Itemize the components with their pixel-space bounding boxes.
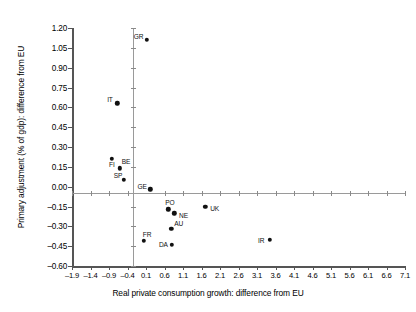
scatter-chart-figure: –1.9–1.4–0.9–0.40.10.61.11.62.12.63.13.6… xyxy=(0,0,416,312)
zero-line-y-tick xyxy=(131,68,136,69)
data-point-label: FR xyxy=(143,231,152,238)
data-point-label: PO xyxy=(165,199,174,206)
x-tick-label: 1.1 xyxy=(178,271,188,280)
x-tick xyxy=(109,266,110,270)
data-point xyxy=(170,243,174,247)
x-tick-label: 4.6 xyxy=(308,271,318,280)
x-tick-label: –0.4 xyxy=(121,271,135,280)
zero-line-y-tick xyxy=(131,48,136,49)
y-tick-label: 1.20 xyxy=(52,24,67,33)
zero-line-x-tick xyxy=(91,191,92,196)
data-point-label: IT xyxy=(107,96,113,103)
data-point-label: DA xyxy=(159,241,168,248)
data-point xyxy=(118,166,122,170)
y-tick-label: 0.30 xyxy=(52,143,67,152)
y-tick-label: 0.00 xyxy=(52,182,67,191)
y-tick-label: 0.60 xyxy=(52,103,67,112)
y-axis-title: Primary adjustment (% of gdp): differenc… xyxy=(16,12,26,262)
x-tick xyxy=(220,266,221,270)
x-tick xyxy=(202,266,203,270)
data-point-label: UK xyxy=(210,205,219,212)
plot-area: –1.9–1.4–0.9–0.40.10.61.11.62.12.63.13.6… xyxy=(72,28,405,266)
x-tick xyxy=(331,266,332,270)
x-tick xyxy=(72,266,73,270)
x-tick-label: 2.6 xyxy=(234,271,244,280)
y-tick xyxy=(68,48,72,49)
x-tick-label: 1.6 xyxy=(197,271,207,280)
zero-line-y-tick xyxy=(131,28,136,29)
x-tick-label: 3.1 xyxy=(252,271,262,280)
data-point-label: AU xyxy=(174,220,183,227)
data-point-label: GE xyxy=(137,183,146,190)
zero-line-x-tick xyxy=(202,191,203,196)
y-tick-label: 0.75 xyxy=(52,83,67,92)
y-tick-label: 0.90 xyxy=(52,63,67,72)
x-tick-label: 5.1 xyxy=(326,271,336,280)
x-tick-label: –1.4 xyxy=(84,271,98,280)
x-tick xyxy=(146,266,147,270)
y-tick xyxy=(68,127,72,128)
zero-line-x-tick xyxy=(368,191,369,196)
zero-line-x-tick xyxy=(183,191,184,196)
data-point xyxy=(166,207,170,211)
y-tick xyxy=(68,68,72,69)
x-tick xyxy=(387,266,388,270)
zero-line-y-tick xyxy=(131,207,136,208)
y-tick xyxy=(68,246,72,247)
zero-line-y-tick xyxy=(131,127,136,128)
y-axis-line xyxy=(72,28,74,266)
data-point-label: SP xyxy=(114,172,123,179)
y-tick-label: 1.05 xyxy=(52,43,67,52)
x-tick xyxy=(276,266,277,270)
zero-line-x-tick xyxy=(128,191,129,196)
y-tick xyxy=(68,107,72,108)
x-tick xyxy=(257,266,258,270)
zero-line-y-tick xyxy=(131,107,136,108)
y-tick-label: –0.30 xyxy=(48,222,68,231)
zero-line-x-tick xyxy=(165,191,166,196)
data-point xyxy=(268,237,272,241)
y-tick xyxy=(68,187,72,188)
y-tick-label: –0.60 xyxy=(48,262,68,271)
zero-line-x-tick xyxy=(331,191,332,196)
y-tick-label: 0.45 xyxy=(52,123,67,132)
zero-line-y-tick xyxy=(131,226,136,227)
zero-line-x-tick xyxy=(72,191,73,196)
y-tick xyxy=(68,167,72,168)
x-tick-label: 5.6 xyxy=(345,271,355,280)
zero-line-y-tick xyxy=(131,167,136,168)
x-tick-label: 7.1 xyxy=(400,271,410,280)
data-point xyxy=(203,204,207,208)
y-tick xyxy=(68,147,72,148)
x-tick xyxy=(183,266,184,270)
y-tick-label: 0.15 xyxy=(52,162,67,171)
y-tick xyxy=(68,266,72,267)
zero-line-x-tick xyxy=(294,191,295,196)
zero-line-x-tick xyxy=(276,191,277,196)
x-tick xyxy=(91,266,92,270)
x-tick-label: –1.9 xyxy=(65,271,79,280)
x-tick-label: 6.6 xyxy=(382,271,392,280)
x-tick xyxy=(294,266,295,270)
y-tick xyxy=(68,28,72,29)
y-tick xyxy=(68,207,72,208)
zero-line-x-tick xyxy=(257,191,258,196)
x-tick-label: 0.1 xyxy=(141,271,151,280)
y-tick xyxy=(68,226,72,227)
data-point xyxy=(172,211,176,215)
data-point-label: GR xyxy=(134,33,144,40)
zero-line-x-tick xyxy=(387,191,388,196)
x-tick xyxy=(368,266,369,270)
x-tick xyxy=(128,266,129,270)
zero-line-x-tick xyxy=(313,191,314,196)
data-point xyxy=(115,101,119,105)
zero-line-x-tick xyxy=(220,191,221,196)
zero-line-y-tick xyxy=(131,88,136,89)
zero-line-x-tick xyxy=(239,191,240,196)
zero-line-x-tick xyxy=(350,191,351,196)
data-point-label: IR xyxy=(258,237,264,244)
x-tick-label: 6.1 xyxy=(363,271,373,280)
x-tick-label: –0.9 xyxy=(102,271,116,280)
data-point-label: BE xyxy=(122,158,131,165)
y-tick-label: –0.45 xyxy=(48,242,68,251)
